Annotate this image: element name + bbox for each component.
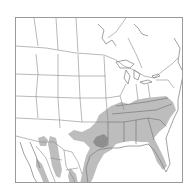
lake-erie <box>140 80 152 84</box>
state-line <box>78 54 82 122</box>
state-line <box>148 84 150 98</box>
range-arizona <box>38 136 48 146</box>
us-mexico-border <box>16 136 82 174</box>
range-central-mexico <box>68 168 78 183</box>
maritime-coast <box>174 38 182 70</box>
state-line <box>36 54 38 118</box>
state-line <box>16 96 106 98</box>
range-map <box>15 17 183 183</box>
range-southeast-us <box>68 96 176 183</box>
state-line <box>136 84 138 100</box>
lake-ontario <box>152 74 160 78</box>
province-line <box>56 18 58 50</box>
state-line <box>156 80 174 88</box>
province-line <box>108 18 126 38</box>
gulf-california-coast <box>30 142 40 168</box>
state-line <box>106 84 126 98</box>
quebec-line <box>128 38 142 68</box>
lake-michigan <box>124 70 130 84</box>
labrador-coast <box>134 24 148 36</box>
province-line <box>34 18 38 46</box>
state-line <box>16 74 106 76</box>
hudson-bay-coast <box>98 24 116 46</box>
province-line <box>76 18 78 52</box>
lake-superior <box>116 60 134 68</box>
map-svg <box>16 18 183 183</box>
baja-coast <box>20 142 38 183</box>
state-line <box>58 54 60 128</box>
atlantic-coast <box>166 72 183 172</box>
state-line <box>16 118 108 122</box>
us-canada-border <box>16 46 178 78</box>
